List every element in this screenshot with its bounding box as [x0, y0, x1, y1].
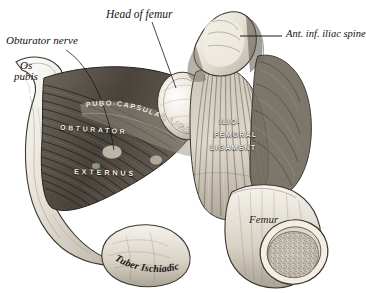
femur-label: Femur: [249, 213, 278, 225]
ilio-label: ILIO-: [219, 117, 241, 126]
femoral-label: FEMORAL: [214, 130, 257, 139]
os-pubis-label-line2: pubis: [14, 70, 38, 82]
head-of-femur-label: Head of femur: [106, 8, 172, 20]
obturator-nerve-label: Obturator nerve: [6, 34, 78, 46]
ant-inf-iliac-spine-label: Ant. inf. iliac spine: [286, 28, 366, 39]
ligament-label: LIGAMENT: [210, 143, 256, 152]
